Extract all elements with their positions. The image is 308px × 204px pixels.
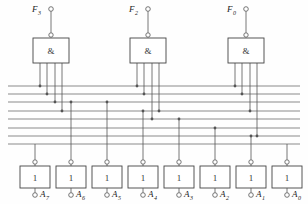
junction-dot-16	[178, 118, 181, 121]
junction-dot-1	[39, 85, 42, 88]
inverter-label-A5: A5	[111, 189, 121, 201]
junction-dot-4	[61, 110, 64, 113]
inverter-label-A2: A2	[219, 189, 229, 201]
inverter-input-terminal-A2	[213, 160, 217, 164]
svg-text:A: A	[147, 189, 154, 199]
svg-text:4: 4	[154, 195, 157, 201]
inverter-label-A3: A3	[183, 189, 193, 201]
junction-dot-2	[46, 93, 49, 96]
logic-circuit-diagram: &F3&F2&F0 1A71A61A51A41A31A21A11A0	[0, 0, 308, 204]
and-gates-layer: &F3&F2&F0	[31, 4, 264, 63]
inversion-bubble-F3	[49, 33, 53, 37]
inverter-output-terminal-A7	[33, 193, 38, 198]
output-terminal-F3	[49, 7, 54, 12]
inverter-symbol-A7: 1	[33, 173, 38, 183]
svg-text:6: 6	[82, 195, 85, 201]
inverter-symbol-A1: 1	[249, 173, 254, 183]
inverter-output-terminal-A5	[105, 193, 110, 198]
junction-dot-9	[234, 85, 237, 88]
inversion-bubble-F0	[244, 33, 248, 37]
svg-text:2: 2	[135, 10, 138, 16]
output-terminal-F2	[146, 7, 151, 12]
svg-text:A: A	[75, 189, 82, 199]
svg-text:5: 5	[118, 195, 121, 201]
svg-text:1: 1	[262, 195, 265, 201]
inverter-output-terminal-A3	[177, 193, 182, 198]
junction-dot-7	[158, 110, 161, 113]
junction-dot-10	[241, 93, 244, 96]
inverter-output-terminal-A4	[141, 193, 146, 198]
svg-text:0: 0	[233, 10, 236, 16]
junction-dot-11	[249, 110, 252, 113]
junction-dot-14	[106, 101, 109, 104]
junction-dot-8	[151, 118, 154, 121]
svg-text:A: A	[291, 189, 298, 199]
junction-dot-13	[70, 101, 73, 104]
svg-text:F: F	[226, 4, 233, 14]
output-terminal-F0	[244, 7, 249, 12]
inversion-bubble-F2	[146, 33, 150, 37]
svg-text:F: F	[128, 4, 135, 14]
gate-label-F2: F2	[128, 4, 138, 16]
circuit-canvas: &F3&F2&F0 1A71A61A51A41A31A21A11A0	[0, 0, 308, 204]
gate-label-F3: F3	[31, 4, 41, 16]
svg-text:A: A	[255, 189, 262, 199]
inverter-symbol-A4: 1	[141, 173, 146, 183]
junction-dot-17	[214, 127, 217, 130]
svg-text:2: 2	[226, 195, 229, 201]
and-gate-symbol-F3: &	[47, 46, 54, 56]
svg-text:0: 0	[298, 195, 301, 201]
svg-text:A: A	[183, 189, 190, 199]
inverter-symbol-A5: 1	[105, 173, 110, 183]
junction-dot-15	[142, 110, 145, 113]
inverter-input-terminal-A1	[249, 160, 253, 164]
junction-dot-5	[136, 85, 139, 88]
inverter-symbol-A2: 1	[213, 173, 218, 183]
junction-dot-3	[54, 101, 57, 104]
inverters-layer: 1A71A61A51A41A31A21A11A0	[20, 160, 302, 201]
svg-text:3: 3	[37, 10, 41, 16]
inverter-input-terminal-A6	[69, 160, 73, 164]
inverter-output-terminal-A6	[69, 193, 74, 198]
inverter-symbol-A6: 1	[69, 173, 74, 183]
inverter-label-A7: A7	[39, 189, 50, 201]
inverter-output-terminal-A2	[213, 193, 218, 198]
inverter-input-terminal-A7	[33, 160, 37, 164]
junction-dot-18	[250, 135, 253, 138]
svg-text:A: A	[111, 189, 118, 199]
inverter-symbol-A3: 1	[177, 173, 182, 183]
svg-text:7: 7	[46, 195, 50, 201]
inverter-label-A6: A6	[75, 189, 85, 201]
inverter-symbol-A0: 1	[285, 173, 290, 183]
and-gate-symbol-F2: &	[144, 46, 151, 56]
inverter-input-terminal-A3	[177, 160, 181, 164]
junction-dot-6	[143, 93, 146, 96]
inverter-output-terminal-A0	[285, 193, 290, 198]
inverter-output-terminal-A1	[249, 193, 254, 198]
junction-dot-12	[256, 135, 259, 138]
svg-text:F: F	[31, 4, 38, 14]
and-gate-symbol-F0: &	[242, 46, 249, 56]
inverter-input-terminal-A4	[141, 160, 145, 164]
svg-text:3: 3	[189, 195, 193, 201]
svg-text:A: A	[39, 189, 46, 199]
inverter-input-terminal-A0	[285, 160, 289, 164]
gate-label-F0: F0	[226, 4, 236, 16]
inverter-label-A4: A4	[147, 189, 157, 201]
inverter-label-A0: A0	[291, 189, 301, 201]
svg-text:A: A	[219, 189, 226, 199]
inverter-input-terminal-A5	[105, 160, 109, 164]
inverter-label-A1: A1	[255, 189, 265, 201]
